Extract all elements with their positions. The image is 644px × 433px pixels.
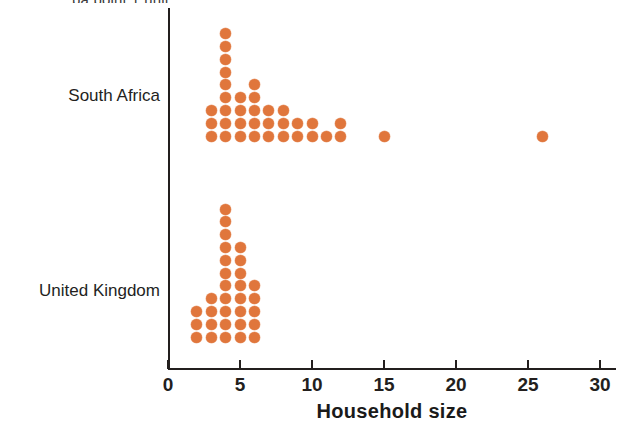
data-dot — [220, 280, 231, 291]
data-dot — [235, 306, 246, 317]
data-dot — [220, 242, 231, 253]
data-dot — [321, 131, 332, 142]
data-dot — [220, 79, 231, 90]
data-dot — [263, 131, 274, 142]
data-dot — [191, 332, 202, 343]
data-dot — [249, 306, 260, 317]
data-dot — [249, 293, 260, 304]
data-dot — [335, 131, 346, 142]
data-dot — [206, 118, 217, 129]
data-dot — [292, 118, 303, 129]
data-dot — [220, 118, 231, 129]
data-dot — [278, 131, 289, 142]
data-dot — [206, 131, 217, 142]
data-dot — [206, 319, 217, 330]
data-dot — [537, 131, 548, 142]
data-dot — [220, 28, 231, 39]
dot-plot-figure: pa point 1 unit 051015202530 South Afric… — [0, 0, 644, 433]
data-dot — [235, 319, 246, 330]
data-dot — [220, 131, 231, 142]
data-dot — [191, 306, 202, 317]
data-dot — [220, 41, 231, 52]
data-dot — [335, 118, 346, 129]
data-dot — [278, 105, 289, 116]
data-dot — [235, 118, 246, 129]
data-dot — [220, 105, 231, 116]
data-dot — [249, 332, 260, 343]
dot-plot-marks — [0, 0, 644, 433]
data-dot — [220, 255, 231, 266]
data-dot — [235, 280, 246, 291]
data-dot — [220, 306, 231, 317]
data-dot — [220, 229, 231, 240]
data-dot — [235, 255, 246, 266]
data-dot — [235, 105, 246, 116]
data-dot — [235, 92, 246, 103]
data-dot — [292, 131, 303, 142]
data-dot — [235, 268, 246, 279]
data-dot — [249, 118, 260, 129]
data-dot — [206, 332, 217, 343]
data-dot — [249, 319, 260, 330]
data-dot — [235, 242, 246, 253]
data-dot — [278, 118, 289, 129]
data-dot — [249, 79, 260, 90]
data-dot — [206, 105, 217, 116]
x-axis-title: Household size — [168, 400, 616, 423]
data-dot — [220, 319, 231, 330]
data-dot — [379, 131, 390, 142]
data-dot — [249, 105, 260, 116]
data-dot — [263, 105, 274, 116]
data-dot — [220, 54, 231, 65]
data-dot — [249, 92, 260, 103]
data-dot — [220, 216, 231, 227]
data-dot — [235, 293, 246, 304]
data-dot — [263, 118, 274, 129]
data-dot — [220, 268, 231, 279]
data-dot — [220, 92, 231, 103]
data-dot — [235, 131, 246, 142]
data-dot — [307, 118, 318, 129]
data-dot — [220, 332, 231, 343]
data-dot — [206, 306, 217, 317]
data-dot — [249, 131, 260, 142]
data-dot — [206, 293, 217, 304]
data-dot — [191, 319, 202, 330]
data-dot — [220, 67, 231, 78]
data-dot — [235, 332, 246, 343]
data-dot — [249, 280, 260, 291]
data-dot — [220, 204, 231, 215]
data-dot — [220, 293, 231, 304]
data-dot — [307, 131, 318, 142]
